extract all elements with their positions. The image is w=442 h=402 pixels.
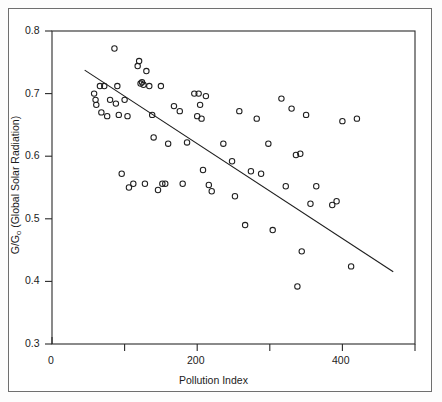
y-tick-label-0.4: 0.4 [25, 274, 40, 286]
plot-axes-frame [52, 31, 415, 344]
y-tick-label-0.8: 0.8 [25, 24, 40, 36]
y-tick-label-0.6: 0.6 [25, 149, 40, 161]
y-axis-title-prefix: G/G [9, 235, 21, 254]
y-tick-label-0.7: 0.7 [25, 87, 40, 99]
x-tick-label-0: 0 [48, 354, 54, 366]
scatter-plot-canvas [0, 0, 442, 402]
y-axis-title-suffix: (Global Solar Radiation) [9, 116, 21, 231]
y-axis-title: G/Go (Global Solar Radiation) [6, 80, 26, 290]
x-tick-label-200: 200 [187, 354, 205, 366]
y-axis-title-subscript: o [14, 231, 23, 235]
y-axis-ticks [45, 31, 52, 344]
y-tick-label-0.3: 0.3 [25, 337, 40, 349]
y-tick-label-0.5: 0.5 [25, 212, 40, 224]
plot-frame-rect [52, 31, 415, 344]
x-tick-label-400: 400 [332, 354, 350, 366]
x-axis-title: Pollution Index [179, 374, 248, 386]
figure-container: 0.8 0.7 0.6 0.5 0.4 0.3 0 200 400 Pollut… [0, 0, 442, 402]
